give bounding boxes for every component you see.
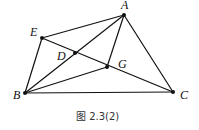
label-G: G bbox=[118, 57, 127, 71]
figure-caption: 图 2.3(2) bbox=[76, 111, 119, 122]
segment-CA bbox=[124, 15, 173, 92]
label-A: A bbox=[120, 0, 129, 12]
segment-BG bbox=[25, 67, 107, 93]
label-E: E bbox=[29, 25, 38, 39]
point-D bbox=[73, 51, 77, 55]
segment-EB bbox=[25, 38, 42, 93]
label-B: B bbox=[13, 88, 21, 102]
point-G bbox=[105, 65, 109, 69]
point-E bbox=[40, 36, 44, 40]
segments bbox=[25, 15, 173, 93]
segment-AE bbox=[42, 15, 124, 38]
label-C: C bbox=[180, 88, 189, 102]
label-D: D bbox=[56, 49, 66, 63]
geometry-diagram: A E D G B C 图 2.3(2) bbox=[0, 0, 199, 130]
point-C bbox=[171, 90, 175, 94]
vertices bbox=[23, 13, 175, 95]
point-B bbox=[23, 91, 27, 95]
segment-BC bbox=[25, 92, 173, 93]
point-A bbox=[122, 13, 126, 17]
